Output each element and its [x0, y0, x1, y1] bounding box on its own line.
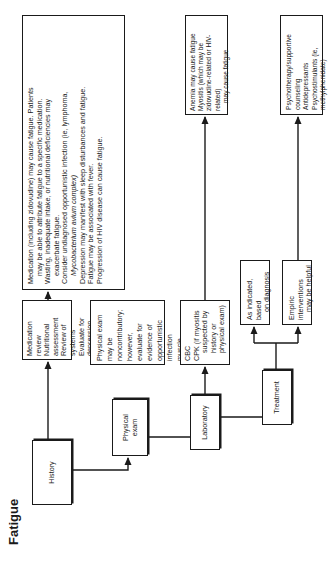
text-line: Myositis (which may be zidovudine-relate…: [197, 19, 222, 111]
page-title: Fatigue: [6, 499, 21, 545]
step-label: History: [48, 461, 57, 483]
text-line: Anemia may cause fatigue: [189, 19, 197, 111]
step-label: Laboratory: [201, 405, 210, 439]
treatment-option-indicated: As indicated, based on diagnosis: [240, 260, 270, 325]
text-line: may cause fatigue: [222, 19, 230, 111]
text-line: Medication review: [26, 304, 43, 356]
text-line: As indicated, based: [246, 265, 263, 320]
text-line: noncontributory; however,: [115, 304, 135, 361]
step-history: History: [32, 440, 72, 505]
text-line: Empiric interventions: [288, 265, 305, 320]
text-line: Nutritional assessment: [43, 304, 60, 356]
text-line: Psychostimulants (ie, methylphenidate): [311, 20, 328, 110]
text-line: suspected by history or: [201, 304, 218, 361]
text-line: Antidepressants: [302, 20, 311, 110]
treatment-option-empiric: Empiric interventions may be helpful: [282, 260, 312, 325]
history-outcome-box: Medication (including zidovudine) may ca…: [22, 15, 125, 290]
text-line: physical exam): [218, 304, 227, 361]
text-line: Review of systems: [60, 304, 77, 356]
lab-detail-box: CBC CPK (if myositis suspected by histor…: [180, 300, 230, 365]
text-line: Progression of HIV disease can cause fat…: [96, 21, 105, 284]
treatment-outcome-box: Psychotherapy/supportive counseling Anti…: [280, 15, 323, 115]
history-detail-box: Medication review Nutritional assessment…: [22, 300, 72, 360]
text-line: evaluate for evidence of: [135, 304, 155, 361]
step-treatment: Treatment: [262, 370, 292, 425]
step-label: Treatment: [273, 381, 282, 414]
text-line: Physical exam may be: [95, 304, 115, 361]
lab-outcome-box: Anemia may cause fatigue Myositis (which…: [185, 15, 228, 115]
step-label: Physical exam: [121, 408, 139, 448]
step-laboratory: Laboratory: [190, 395, 220, 450]
step-physical-exam: Physical exam: [112, 399, 148, 456]
text-line: on diagnosis: [263, 265, 272, 320]
text-line: Psychotherapy/supportive counseling: [285, 20, 302, 110]
physical-detail-box: Physical exam may be noncontributory; ho…: [90, 300, 165, 365]
text-line: may be helpful: [305, 265, 314, 320]
text-line: opportunistic infection: [155, 304, 175, 361]
